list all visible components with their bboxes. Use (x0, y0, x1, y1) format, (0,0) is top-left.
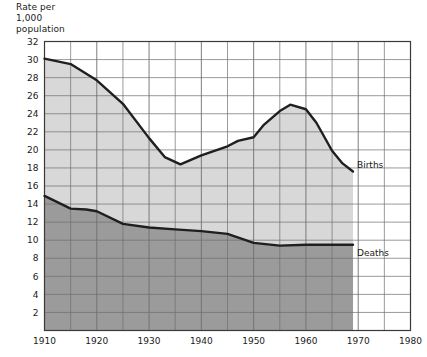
x-tick-label: 1980 (399, 336, 422, 346)
y-tick-label: 10 (27, 235, 39, 245)
x-tick-label: 1910 (33, 336, 56, 346)
y-tick-label: 2 (33, 308, 39, 318)
x-tick-label: 1920 (85, 336, 108, 346)
y-tick-label: 8 (33, 253, 39, 263)
y-tick-label: 30 (27, 55, 39, 65)
x-tick-label: 1940 (190, 336, 213, 346)
x-tick-label: 1930 (138, 336, 161, 346)
y-axis-title: Rate per 1,000 population (16, 2, 65, 35)
chart-plot-area: 2468101214161820222426283032 19101920193… (0, 0, 427, 357)
x-axis-tick-labels: 19101920193019401950196019701980 (33, 336, 422, 346)
y-tick-label: 28 (27, 73, 39, 83)
y-tick-label: 14 (27, 199, 39, 209)
y-tick-label: 6 (33, 272, 39, 282)
y-tick-label: 16 (27, 181, 39, 191)
y-tick-label: 4 (33, 290, 39, 300)
y-tick-label: 12 (27, 217, 38, 227)
y-tick-label: 18 (27, 163, 39, 173)
population-rate-chart: Rate per 1,000 population 24681012141618… (0, 0, 427, 357)
deaths-series-label: Deaths (357, 248, 389, 258)
y-tick-label: 22 (27, 127, 38, 137)
y-axis-tick-labels: 2468101214161820222426283032 (27, 37, 39, 318)
births-series-label: Births (357, 160, 384, 170)
y-tick-label: 20 (27, 145, 39, 155)
y-tick-label: 32 (27, 37, 38, 47)
y-tick-label: 24 (27, 109, 39, 119)
x-tick-label: 1950 (242, 336, 265, 346)
x-tick-label: 1970 (347, 336, 370, 346)
area-bands (45, 59, 353, 331)
y-tick-label: 26 (27, 91, 39, 101)
x-tick-label: 1960 (294, 336, 317, 346)
